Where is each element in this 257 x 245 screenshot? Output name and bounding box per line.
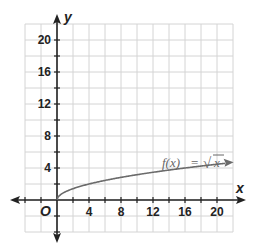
x-tick-label: 4 [86,205,93,219]
y-tick-label: 16 [38,65,52,79]
function-lhs: f(x) [162,155,180,170]
function-arg: x [213,155,220,170]
x-tick-label: 20 [210,205,224,219]
x-tick-label: 16 [178,205,192,219]
y-axis-label: y [63,9,73,25]
curve-arrow-icon [224,159,234,167]
function-equals: = [191,155,198,170]
sqrt-curve [57,163,225,200]
x-tick-label: 8 [118,205,125,219]
sqrt-function-graph: 4812162048121620 y x O f(x) = √ x [0,0,257,245]
y-axis [53,14,61,243]
origin-label: O [40,203,51,219]
y-tick-label: 4 [44,161,51,175]
sqrt-icon: √ [203,155,212,171]
y-tick-label: 8 [44,129,51,143]
y-tick-label: 20 [38,33,52,47]
function-label: f(x) = √ x [162,155,224,171]
y-tick-label: 12 [38,97,52,111]
x-tick-label: 12 [146,205,160,219]
x-axis-label: x [235,180,245,196]
